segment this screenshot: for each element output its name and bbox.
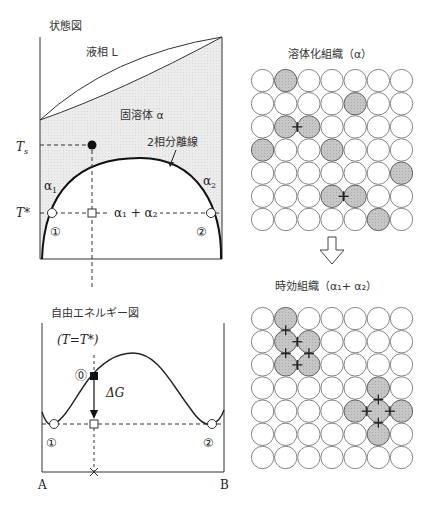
solvent-atom bbox=[344, 69, 366, 91]
energy-point-1-marker bbox=[50, 420, 59, 429]
solvent-atom bbox=[344, 354, 366, 376]
solvent-atom bbox=[390, 354, 412, 376]
solvent-atom bbox=[321, 331, 343, 353]
solvent-atom bbox=[251, 377, 273, 399]
point-0-label: ⓪ bbox=[75, 369, 87, 383]
solvent-atom bbox=[298, 423, 320, 445]
solvent-atom bbox=[344, 116, 366, 138]
solvent-atom bbox=[390, 116, 412, 138]
solvent-atom bbox=[251, 423, 273, 445]
solvent-atom bbox=[298, 377, 320, 399]
point-2-marker bbox=[207, 209, 216, 218]
solvent-atom bbox=[251, 446, 273, 468]
solvent-atom bbox=[251, 208, 273, 230]
two-phase-label: α₁ + α₂ bbox=[114, 206, 158, 220]
solvent-atom bbox=[390, 69, 412, 91]
solvent-atom bbox=[390, 185, 412, 207]
solvent-atom bbox=[251, 307, 273, 329]
solvent-atom bbox=[251, 93, 273, 115]
solvent-atom bbox=[321, 208, 343, 230]
solvent-atom bbox=[275, 446, 297, 468]
aged-structure-grid bbox=[251, 307, 412, 468]
solvent-atom bbox=[367, 116, 389, 138]
solvent-atom bbox=[298, 69, 320, 91]
solvent-atom bbox=[298, 162, 320, 184]
solvent-atom bbox=[251, 162, 273, 184]
free-energy-diagram: 自由エネルギー図 (T=T*) ⓪ ΔG ① ② A B bbox=[37, 306, 229, 492]
alloy-point-marker bbox=[88, 209, 96, 217]
solvent-atom bbox=[321, 162, 343, 184]
solvent-atom bbox=[275, 423, 297, 445]
solvent-atom bbox=[251, 185, 273, 207]
transition-arrow-icon bbox=[320, 237, 344, 264]
solvent-atom bbox=[390, 377, 412, 399]
solvent-atom bbox=[298, 185, 320, 207]
solvent-atom bbox=[344, 162, 366, 184]
solvent-atom bbox=[390, 139, 412, 161]
solvent-atom bbox=[275, 377, 297, 399]
delta-g-label: ΔG bbox=[105, 386, 125, 400]
energy-diagram-title: 自由エネルギー図 bbox=[51, 306, 139, 320]
solvent-atom bbox=[321, 116, 343, 138]
solvent-atom bbox=[298, 307, 320, 329]
aged-structure-title: 時効組織（α₁+ α₂） bbox=[275, 279, 377, 293]
solvent-atom bbox=[390, 331, 412, 353]
solvent-atom bbox=[390, 423, 412, 445]
axis-a-label: A bbox=[37, 478, 47, 492]
solvent-atom bbox=[321, 400, 343, 422]
solvent-atom bbox=[321, 423, 343, 445]
solvent-atom bbox=[367, 162, 389, 184]
solvent-atom bbox=[321, 354, 343, 376]
point-1-label: ① bbox=[50, 225, 61, 239]
condition-label: (T=T*) bbox=[57, 333, 99, 347]
solvent-atom bbox=[275, 208, 297, 230]
ts-point bbox=[88, 141, 97, 150]
solvent-atom bbox=[275, 185, 297, 207]
solid-solution-label: 固溶体 α bbox=[120, 108, 164, 122]
solvent-atom bbox=[390, 446, 412, 468]
solvent-atom bbox=[251, 116, 273, 138]
solvent-atom bbox=[390, 93, 412, 115]
solvent-atom bbox=[344, 139, 366, 161]
initial-state-marker bbox=[90, 372, 98, 380]
solvent-atom bbox=[251, 400, 273, 422]
energy-point-2-label: ② bbox=[203, 436, 214, 450]
solvent-atom bbox=[321, 446, 343, 468]
delta-g-arrowhead bbox=[90, 410, 98, 419]
solvent-atom bbox=[275, 162, 297, 184]
solute-atom bbox=[275, 69, 297, 91]
liquid-label: 液相 L bbox=[86, 45, 118, 59]
solvent-atom bbox=[367, 354, 389, 376]
solvent-atom bbox=[251, 354, 273, 376]
solvent-atom bbox=[367, 331, 389, 353]
solvent-atom bbox=[344, 423, 366, 445]
final-state-marker bbox=[90, 420, 98, 428]
phase-diagram: 状態図 液相 L 固溶体 α 2相分離線 Ts α1 α2 T* bbox=[16, 19, 222, 290]
solvent-atom bbox=[321, 93, 343, 115]
solvent-atom bbox=[321, 69, 343, 91]
solvent-atom bbox=[275, 139, 297, 161]
solvent-atom bbox=[367, 307, 389, 329]
solute-atom bbox=[251, 139, 273, 161]
solvent-atom bbox=[275, 400, 297, 422]
solvent-atom bbox=[344, 377, 366, 399]
solvent-atom bbox=[367, 93, 389, 115]
solvent-atom bbox=[298, 139, 320, 161]
solvent-atom bbox=[390, 307, 412, 329]
solvent-atom bbox=[344, 331, 366, 353]
phase-diagram-title: 状態図 bbox=[49, 19, 82, 33]
figure-canvas: 状態図 液相 L 固溶体 α 2相分離線 Ts α1 α2 T* bbox=[0, 0, 434, 508]
free-energy-curve bbox=[42, 353, 224, 425]
solvent-atom bbox=[298, 208, 320, 230]
solvent-atom bbox=[275, 93, 297, 115]
solvent-atom bbox=[367, 446, 389, 468]
solvent-atom bbox=[298, 446, 320, 468]
solvent-atom bbox=[321, 377, 343, 399]
tstar-label: T* bbox=[16, 206, 30, 220]
solution-structure-grid bbox=[251, 69, 412, 230]
solvent-atom bbox=[321, 307, 343, 329]
energy-point-1-label: ① bbox=[46, 436, 57, 450]
solute-atom bbox=[367, 208, 389, 230]
solute-atom bbox=[321, 139, 343, 161]
solvent-atom bbox=[367, 185, 389, 207]
